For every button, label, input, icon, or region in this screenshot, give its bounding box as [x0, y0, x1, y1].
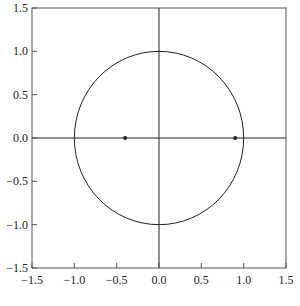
x-tick-label: 1.5	[279, 273, 294, 287]
plot-area	[32, 8, 286, 268]
y-tick-label: 1.5	[13, 1, 28, 15]
x-tick-label: −1.0	[63, 273, 85, 287]
x-tick-label: 0.0	[152, 273, 167, 287]
x-tick-label: 1.0	[236, 273, 251, 287]
x-tick-label: −1.5	[21, 273, 43, 287]
y-tick-label: 0.5	[13, 88, 28, 102]
unit-circle-chart: −1.5−1.0−0.50.00.51.01.5 1.51.00.50.0−0.…	[0, 0, 300, 306]
x-axis-ticks: −1.5−1.0−0.50.00.51.01.5	[21, 263, 293, 287]
y-tick-label: −1.5	[6, 261, 28, 275]
y-tick-label: −0.5	[6, 174, 28, 188]
data-point	[233, 136, 237, 140]
y-tick-label: 0.0	[13, 131, 28, 145]
x-tick-label: −0.5	[106, 273, 128, 287]
y-tick-label: −1.0	[6, 218, 28, 232]
y-tick-label: 1.0	[13, 44, 28, 58]
data-point	[123, 136, 127, 140]
x-tick-label: 0.5	[194, 273, 209, 287]
